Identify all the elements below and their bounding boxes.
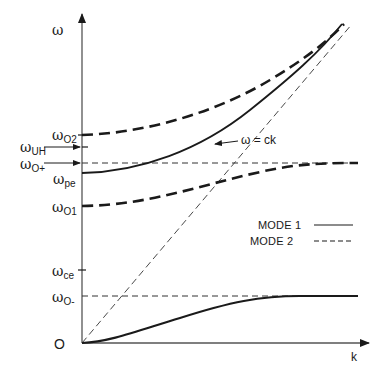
- label-omega-pe: ωpe: [53, 172, 76, 189]
- light-line-label: ω = ck: [241, 134, 276, 146]
- label-omega-oplus: ωO+: [20, 157, 45, 174]
- label-omega-o2: ωO2: [52, 128, 77, 145]
- y-axis-label: ω: [52, 23, 63, 37]
- mode1-upper-curve: [82, 24, 342, 173]
- label-omega-uh: ωUH: [20, 140, 46, 157]
- origin-label: O: [54, 337, 65, 351]
- legend-mode2-label: MODE 2: [250, 235, 293, 247]
- label-omega-ce: ωce: [52, 264, 74, 281]
- legend-mode1-label: MODE 1: [258, 219, 301, 231]
- x-axis-label: k: [351, 351, 357, 363]
- label-omega-ominus: ωO-: [52, 290, 75, 307]
- dispersion-plot: [0, 0, 385, 382]
- label-omega-o1: ωO1: [52, 200, 77, 217]
- ck-annotation-arrow: [215, 141, 238, 144]
- mode1-lower-curve: [82, 296, 358, 343]
